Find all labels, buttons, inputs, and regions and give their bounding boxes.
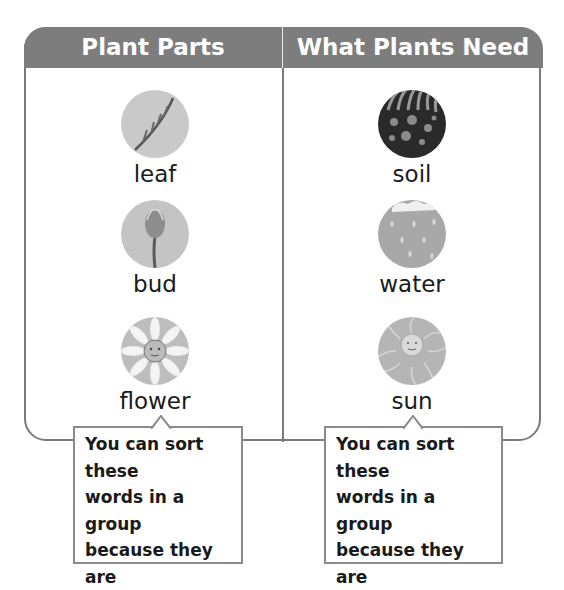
soil-icon — [378, 90, 446, 158]
item-label: bud — [85, 270, 225, 298]
header-what-plants-need: What Plants Need — [283, 27, 543, 68]
callout-line: because they are — [85, 537, 231, 590]
leaf-icon — [121, 90, 189, 158]
callout-what-plants-need: You can sort these words in a group beca… — [324, 426, 503, 564]
callout-line: You can sort these — [85, 431, 231, 484]
item-label: sun — [342, 387, 482, 415]
flower-icon — [121, 317, 189, 385]
item-label: water — [342, 270, 482, 298]
header-plant-parts: Plant Parts — [24, 27, 282, 68]
bud-icon — [121, 200, 189, 268]
list-item-sun: sun — [342, 317, 482, 415]
callout-line: words in a group — [85, 484, 231, 537]
list-item-flower: flower — [85, 317, 225, 415]
water-icon — [378, 200, 446, 268]
callout-line: You can sort these — [336, 431, 491, 484]
column-divider — [282, 68, 284, 442]
item-label: leaf — [85, 160, 225, 188]
list-item-water: water — [342, 200, 482, 298]
chart-header: Plant Parts What Plants Need — [24, 27, 543, 68]
item-label: flower — [85, 387, 225, 415]
callout-line: words in a group — [336, 484, 491, 537]
list-item-bud: bud — [85, 200, 225, 298]
callout-line: because they are — [336, 537, 491, 590]
sun-icon — [378, 317, 446, 385]
callout-plant-parts: You can sort these words in a group beca… — [73, 426, 243, 564]
item-label: soil — [342, 160, 482, 188]
list-item-leaf: leaf — [85, 90, 225, 188]
list-item-soil: soil — [342, 90, 482, 188]
